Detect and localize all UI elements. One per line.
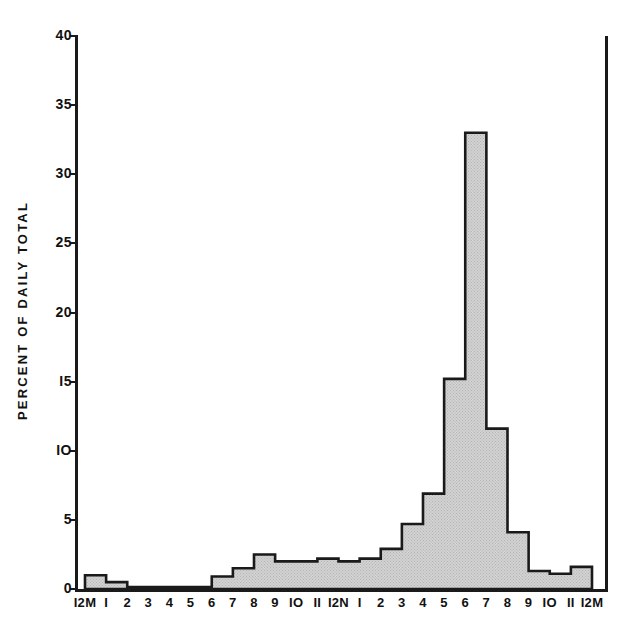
y-tick-label: 20	[32, 304, 72, 320]
y-tick-label: 35	[32, 96, 72, 112]
y-tick-label: 0	[32, 580, 72, 596]
y-tick-label: I5	[32, 373, 72, 389]
x-tick-label: 7	[229, 595, 237, 610]
x-tick-label: I2M	[581, 595, 604, 610]
x-tick-label: II	[313, 595, 321, 610]
x-tick-label: IO	[543, 595, 557, 610]
plot-area	[78, 36, 605, 589]
x-tick-label: 9	[525, 595, 533, 610]
x-tick-label: 8	[250, 595, 258, 610]
y-tick-label: 40	[32, 27, 72, 43]
x-tick-label: 4	[166, 595, 174, 610]
x-axis-line	[75, 589, 608, 592]
y-tick-label: 5	[32, 511, 72, 527]
x-tick-label: I	[358, 595, 362, 610]
x-tick-label: 3	[398, 595, 406, 610]
x-tick-label: 6	[461, 595, 469, 610]
x-tick-label: II	[567, 595, 575, 610]
x-tick-label: 7	[483, 595, 491, 610]
step-area-series	[78, 36, 605, 589]
x-tick-label: 5	[440, 595, 448, 610]
right-axis-line	[605, 36, 608, 592]
x-tick-label: 3	[145, 595, 153, 610]
y-tick-label: 30	[32, 165, 72, 181]
x-tick-label: 9	[271, 595, 279, 610]
x-tick-label: I2M	[74, 595, 97, 610]
x-tick-label: 2	[123, 595, 131, 610]
x-tick-label: 2	[377, 595, 385, 610]
x-tick-label: I	[104, 595, 108, 610]
x-tick-label: 8	[504, 595, 512, 610]
x-tick-label: 4	[419, 595, 427, 610]
x-tick-label: 5	[187, 595, 195, 610]
y-tick-label: IO	[32, 442, 72, 458]
histogram-outline	[85, 133, 592, 589]
chart-figure: PERCENT OF DAILY TOTAL 05IOI52025303540 …	[0, 0, 644, 639]
x-tick-label: I2N	[328, 595, 349, 610]
x-tick-label: 6	[208, 595, 216, 610]
x-tick-label: IO	[289, 595, 303, 610]
y-tick-label: 25	[32, 234, 72, 250]
